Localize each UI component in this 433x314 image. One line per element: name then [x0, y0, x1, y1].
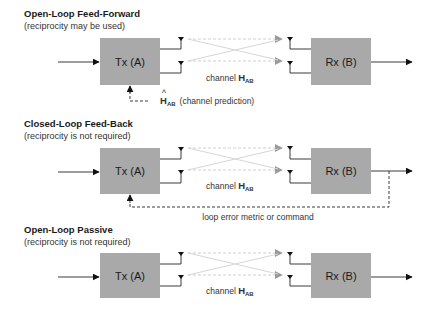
antenna-icon	[178, 275, 184, 279]
tx-antenna-feed-2	[160, 64, 181, 73]
section-open-loop-passive: Open-Loop Passive (reciprocity is not re…	[24, 224, 412, 298]
antenna-icon	[178, 252, 184, 256]
rx-antenna-feed-1	[290, 40, 311, 49]
rx-antenna-feed-2	[290, 278, 311, 286]
channel-prediction-label: HAB(channel prediction)	[160, 95, 254, 107]
channel-paths	[188, 39, 282, 61]
rx-label: Rx (B)	[325, 56, 356, 68]
channel-paths	[188, 253, 282, 275]
section-title: Closed-Loop Feed-Back	[24, 118, 133, 129]
channel-label: channel HAB	[206, 72, 254, 84]
tx-label: Tx (A)	[115, 165, 145, 177]
mimo-feedback-diagram: Open-Loop Feed-Forward (reciprocity may …	[0, 0, 433, 314]
prediction-dashed-line	[130, 92, 148, 101]
section-closed-loop-feed-back: Closed-Loop Feed-Back (reciprocity is no…	[24, 118, 412, 222]
channel-label: channel HAB	[206, 180, 254, 192]
section-subtitle: (reciprocity is not required)	[24, 131, 131, 141]
rx-antenna-feed-1	[290, 149, 311, 159]
section-subtitle: (reciprocity is not required)	[24, 237, 131, 247]
rx-antenna-feed-1	[290, 255, 311, 264]
antenna-icon	[178, 147, 184, 151]
loop-error-label: loop error metric or command	[202, 212, 314, 222]
tx-antenna-feed-2	[160, 278, 181, 286]
tx-label: Tx (A)	[115, 270, 145, 282]
section-subtitle: (reciprocity may be used)	[24, 21, 125, 31]
tx-antenna-feed-1	[160, 150, 181, 159]
tx-antenna-feed-1	[160, 255, 181, 264]
tx-antenna-feed-1	[160, 40, 181, 49]
antenna-icon	[178, 37, 184, 41]
channel-paths	[188, 148, 282, 170]
section-title: Open-Loop Feed-Forward	[24, 8, 140, 19]
section-title: Open-Loop Passive	[24, 224, 113, 235]
antenna-icon	[178, 61, 184, 65]
rx-antenna-feed-2	[290, 173, 311, 183]
tx-label: Tx (A)	[115, 56, 145, 68]
rx-antenna-feed-2	[290, 64, 311, 73]
rx-label: Rx (B)	[325, 165, 356, 177]
channel-label: channel HAB	[206, 285, 254, 297]
rx-label: Rx (B)	[325, 270, 356, 282]
antenna-icon	[178, 170, 184, 174]
tx-antenna-feed-2	[160, 173, 181, 183]
section-open-loop-feed-forward: Open-Loop Feed-Forward (reciprocity may …	[24, 8, 412, 107]
